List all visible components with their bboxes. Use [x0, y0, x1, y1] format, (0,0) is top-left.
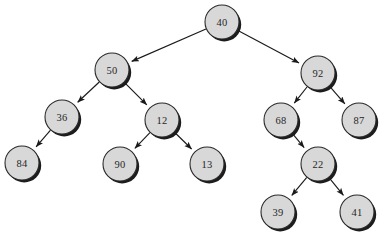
node-label: 50	[107, 65, 118, 76]
tree-node: 39	[261, 195, 297, 231]
tree-canvas: 40509236126887849013223941	[0, 0, 387, 237]
node-label: 13	[202, 159, 213, 170]
tree-edge	[124, 82, 146, 104]
node-label: 41	[352, 207, 363, 218]
tree-nodes: 40509236126887849013223941	[5, 5, 378, 231]
node-label: 36	[57, 112, 68, 123]
tree-edges	[36, 29, 345, 195]
node-label: 39	[273, 207, 284, 218]
node-label: 90	[115, 159, 126, 170]
tree-edge	[330, 86, 345, 104]
tree-node: 41	[340, 195, 376, 231]
tree-edge	[78, 82, 100, 102]
tree-edge	[292, 177, 307, 195]
tree-node: 40	[205, 5, 241, 41]
tree-edge	[36, 130, 50, 147]
tree-edge	[175, 132, 192, 149]
node-label: 87	[354, 115, 365, 126]
tree-edge	[294, 87, 307, 103]
tree-edge	[135, 133, 150, 149]
tree-edge	[237, 30, 299, 63]
tree-node: 68	[264, 103, 300, 139]
tree-edge	[132, 29, 206, 61]
node-label: 68	[276, 115, 287, 126]
tree-node: 87	[342, 103, 378, 139]
tree-node: 90	[103, 147, 139, 183]
tree-node: 12	[145, 103, 181, 139]
tree-edge	[292, 133, 304, 147]
node-label: 22	[313, 159, 324, 170]
tree-node: 50	[95, 53, 131, 89]
node-label: 40	[217, 17, 228, 28]
tree-edge	[329, 178, 343, 196]
node-label: 84	[17, 158, 28, 169]
node-label: 12	[157, 115, 168, 126]
binary-tree-diagram: 40509236126887849013223941	[0, 0, 387, 237]
tree-node: 13	[190, 147, 226, 183]
node-label: 92	[313, 68, 324, 79]
tree-node: 84	[5, 146, 41, 182]
